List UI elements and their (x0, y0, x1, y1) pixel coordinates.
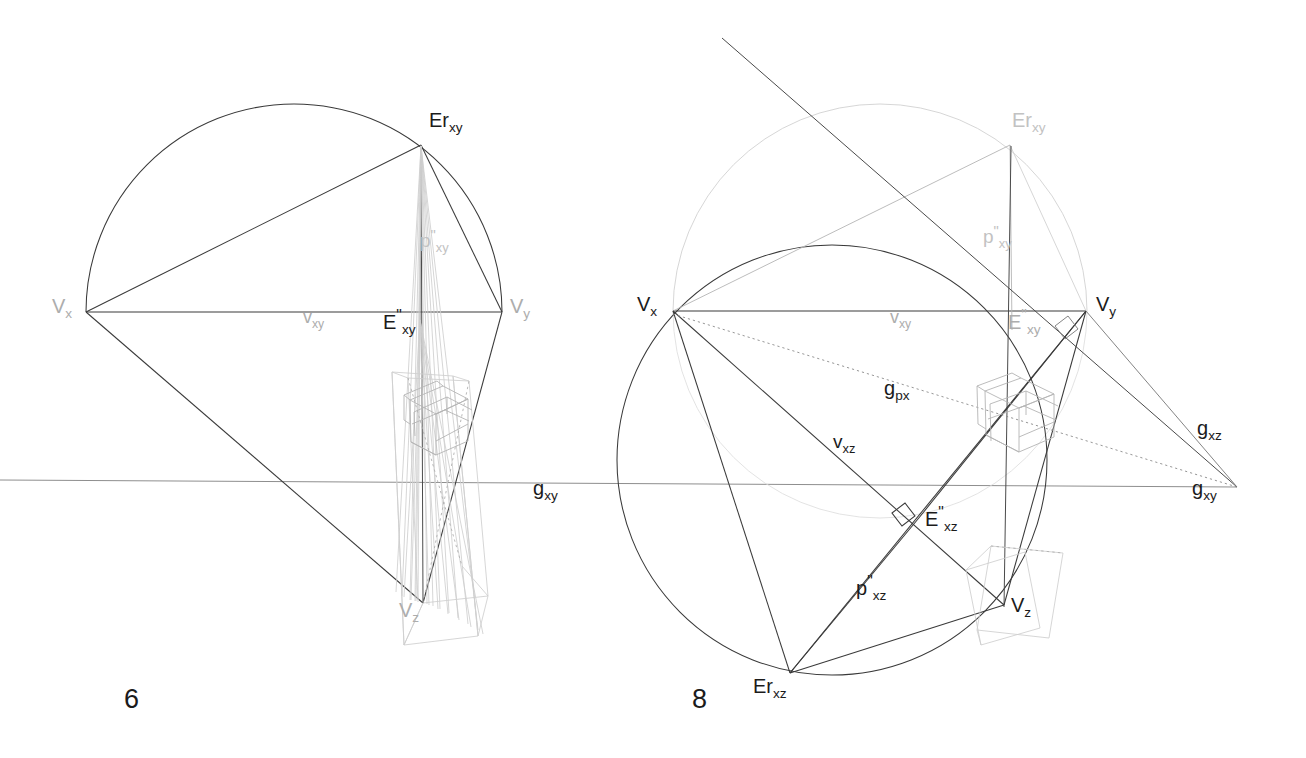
label-gxy-right: gxy (1192, 478, 1217, 503)
line-vx-vz-right (673, 311, 1004, 605)
label-vxy-left: vxy (303, 308, 324, 330)
label-erxz-right: Erxz (753, 676, 787, 701)
line-gpx-right (673, 314, 1237, 487)
line-erxz-vz-right (790, 605, 1004, 673)
drawing-canvas: .dk{stroke:#3a3a3a;stroke-width:1.05;fil… (0, 0, 1306, 758)
label-exy-left: E"xy (383, 308, 415, 336)
label-vy-right: Vy (1096, 294, 1116, 319)
label-gxz-right: gxz (1197, 418, 1222, 443)
label-vxy-right: vxy (890, 308, 911, 330)
circle-xz-right (617, 245, 1047, 675)
line-vx-vz-left (86, 312, 423, 603)
line-erxy-vy-right (1010, 145, 1086, 311)
label-exy-right: E"xy (1008, 308, 1040, 336)
line-gxz-right (1086, 311, 1237, 487)
vertical-axis-right (1004, 146, 1011, 607)
label-vxz-right: vxz (833, 432, 855, 456)
line-vz-vy-right (1004, 311, 1086, 605)
label-vx-left: Vx (52, 296, 72, 321)
label-exz-right: E"xz (925, 505, 957, 533)
label-vz-right: Vz (1011, 595, 1031, 620)
construction-linework: .dk{stroke:#3a3a3a;stroke-width:1.05;fil… (0, 0, 1306, 758)
figure-6-group (86, 104, 502, 645)
label-erxy-right: Erxy (1012, 110, 1046, 135)
object-cube-right (977, 373, 1058, 452)
line-vx-erxz-right (673, 311, 790, 673)
label-pxy-left: p"xy (420, 228, 449, 255)
label-erxy-left: Erxy (429, 110, 463, 135)
figure-number-8: 8 (692, 686, 707, 713)
label-gpx-right: gpx (884, 378, 909, 403)
label-pxz-right: p"xz (856, 574, 886, 602)
figure-8-group (617, 38, 1237, 675)
label-pxy-right: p"xy (983, 224, 1012, 251)
line-vx-erxy-left (86, 145, 421, 312)
oblique-ray-top-right (722, 38, 1237, 487)
label-vz-left: Vz (399, 600, 419, 625)
figure-number-6: 6 (124, 686, 139, 713)
altitude-pxz-right (790, 519, 918, 673)
label-vy-left: Vy (510, 296, 530, 321)
label-vx-right: Vx (637, 294, 657, 319)
line-vx-erxy-right (673, 145, 1010, 311)
object-cube-left (404, 381, 472, 455)
label-gxy-left: gxy (533, 478, 558, 503)
semicircle-xy-right-lower (673, 311, 1087, 518)
